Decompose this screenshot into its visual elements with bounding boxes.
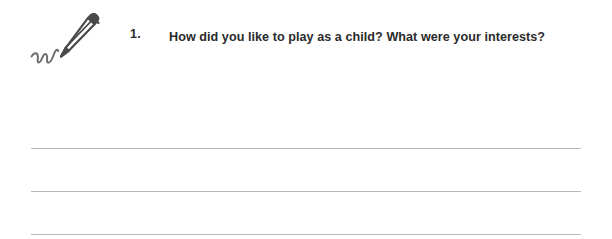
fountain-pen-writing-icon (28, 12, 106, 74)
question-text: How did you like to play as a child? Wha… (169, 26, 589, 48)
question-number: 1. (130, 27, 141, 41)
answer-line-1[interactable] (31, 148, 581, 149)
worksheet-page: 1. How did you like to play as a child? … (0, 0, 612, 239)
answer-line-3[interactable] (31, 234, 581, 235)
answer-line-2[interactable] (31, 191, 581, 192)
